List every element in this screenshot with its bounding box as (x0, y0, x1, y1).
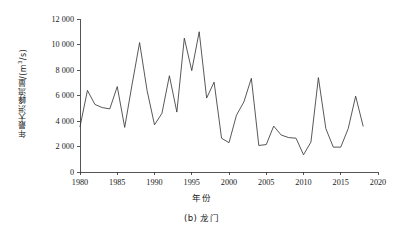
x-axis-title: 年份 (0, 191, 403, 203)
x-tick-label: 1990 (146, 178, 162, 187)
x-tick-label: 1985 (109, 178, 125, 187)
y-tick-label: 4 000 (56, 117, 74, 126)
data-series-line (80, 32, 363, 155)
x-tick-label: 2010 (295, 178, 311, 187)
line-chart-svg: 02 0004 0006 0008 00010 00012 000 198019… (0, 0, 403, 239)
y-tick-label: 6 000 (56, 91, 74, 100)
x-tick-label: 2005 (258, 178, 274, 187)
y-tick-label: 12 000 (51, 15, 74, 24)
y-axis-ticks: 02 0004 0006 0008 00010 00012 000 (51, 15, 80, 177)
y-tick-label: 10 000 (51, 40, 74, 49)
x-tick-label: 1995 (184, 178, 200, 187)
y-tick-label: 8 000 (56, 66, 74, 75)
figure-container: 02 0004 0006 0008 00010 00012 000 198019… (0, 0, 403, 239)
x-tick-label: 1980 (72, 178, 88, 187)
x-axis-ticks: 198019851990199520002005201020152020 (72, 172, 386, 187)
x-tick-label: 2000 (221, 178, 237, 187)
y-tick-label: 0 (70, 168, 74, 177)
figure-caption: (b) 龙门 (0, 211, 403, 223)
y-tick-label: 2 000 (56, 142, 74, 151)
x-tick-label: 2015 (333, 178, 349, 187)
x-tick-label: 2020 (370, 178, 386, 187)
plot-area: 02 0004 0006 0008 00010 00012 000 198019… (0, 0, 403, 239)
